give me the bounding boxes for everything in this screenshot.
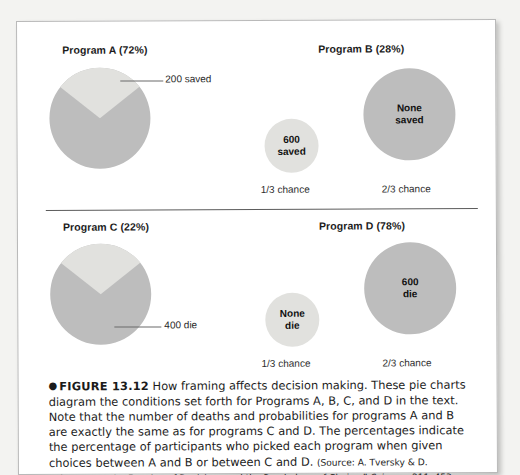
panel-divider: [46, 208, 478, 211]
program-b-small-label-line2: saved: [277, 146, 305, 157]
caption-figure-number: FIGURE 13.12: [59, 379, 149, 393]
scanned-page: Program A (72%) 200 saved Program B (28%…: [16, 19, 498, 475]
program-d-big-circle-label: 600 die: [402, 276, 419, 300]
program-d-small-label-line2: die: [285, 320, 300, 331]
program-d-small-chance: 1/3 chance: [261, 358, 310, 369]
program-d-title: Program D (78%): [319, 219, 405, 231]
program-b-title: Program B (28%): [318, 42, 404, 54]
program-d-small-circle-label: None die: [280, 308, 305, 332]
program-b-big-label-line2: saved: [395, 114, 423, 125]
program-d-big-label-line2: die: [403, 288, 418, 299]
program-b-small-label-line1: 600: [283, 134, 300, 145]
caption-main-text: ●FIGURE 13.12 How framing affects decisi…: [49, 376, 468, 475]
program-c-title: Program C (22%): [63, 220, 149, 232]
program-a-light-wedge: [49, 67, 150, 168]
program-a-title: Program A (72%): [62, 43, 147, 55]
caption-bullet-icon: ●: [49, 380, 58, 391]
program-a-leader-label: 200 saved: [165, 73, 211, 84]
program-b-big-label-line1: None: [397, 102, 422, 113]
program-b-big-circle-label: None saved: [395, 102, 423, 126]
program-d-big-label-line1: 600: [402, 276, 419, 287]
screenshot-root: Program A (72%) 200 saved Program B (28%…: [0, 0, 520, 475]
program-d-small-label-line1: None: [280, 308, 305, 319]
program-c-leader-line: [114, 326, 161, 327]
program-d-small-circle: None die: [265, 293, 319, 347]
program-d-big-circle: 600 die: [364, 242, 456, 334]
figure-plate: Program A (72%) 200 saved Program B (28%…: [17, 20, 497, 374]
program-a-pie: [49, 67, 150, 168]
program-d-big-chance: 2/3 chance: [382, 357, 431, 368]
program-b-small-circle-label: 600 saved: [277, 134, 305, 158]
program-c-leader-label: 400 die: [164, 319, 197, 330]
program-b-big-circle: None saved: [363, 68, 455, 160]
figure-caption: ●FIGURE 13.12 How framing affects decisi…: [49, 376, 468, 475]
program-b-small-circle: 600 saved: [264, 119, 318, 173]
program-c-pie: [50, 243, 151, 344]
program-b-big-chance: 2/3 chance: [382, 183, 431, 194]
program-b-small-chance: 1/3 chance: [261, 184, 310, 195]
program-a-leader-line: [120, 80, 163, 81]
program-c-light-wedge: [50, 243, 151, 344]
